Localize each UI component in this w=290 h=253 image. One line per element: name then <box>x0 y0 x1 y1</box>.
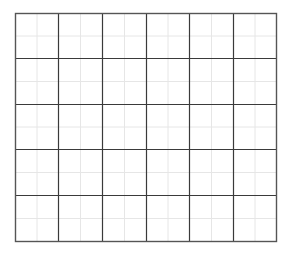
grid-canvas <box>0 0 290 253</box>
grid-diagram <box>0 0 290 253</box>
minor-gridlines <box>15 13 276 241</box>
